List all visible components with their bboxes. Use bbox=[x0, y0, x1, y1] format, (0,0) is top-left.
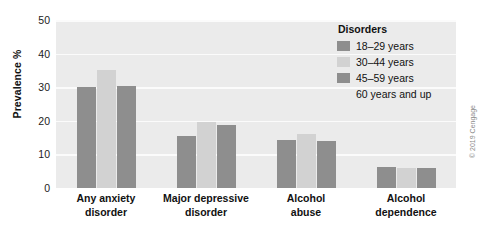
y-axis-tick-labels: 01020304050 bbox=[26, 20, 50, 188]
legend-entry-label: 18–29 years bbox=[356, 40, 414, 52]
bar bbox=[397, 168, 416, 188]
legend-color-swatch bbox=[337, 89, 350, 99]
legend-color-swatch bbox=[337, 41, 350, 51]
y-axis-tick: 30 bbox=[26, 81, 50, 93]
bar-group bbox=[77, 20, 136, 188]
bar bbox=[217, 125, 236, 188]
legend: Disorders 18–29 years30–44 years45–59 ye… bbox=[337, 23, 463, 102]
bar bbox=[317, 141, 336, 188]
legend-entry-label: 60 years and up bbox=[356, 88, 431, 100]
legend-entry: 18–29 years bbox=[337, 38, 463, 54]
y-axis-tick: 40 bbox=[26, 48, 50, 60]
bar-group bbox=[177, 20, 236, 188]
legend-entry: 60 years and up bbox=[337, 86, 463, 102]
x-axis-category-labels: Any anxietydisorderMajor depressivedisor… bbox=[56, 192, 456, 234]
bar bbox=[277, 140, 296, 188]
legend-entry: 45–59 years bbox=[337, 70, 463, 86]
bar bbox=[297, 134, 316, 188]
bar-chart: Prevalence % 01020304050 Any anxietydiso… bbox=[0, 0, 488, 239]
bar bbox=[117, 86, 136, 188]
bar bbox=[417, 168, 436, 188]
bar bbox=[77, 87, 96, 188]
bar-group bbox=[277, 20, 336, 188]
y-axis-title: Prevalence % bbox=[11, 29, 23, 139]
y-axis-tick: 10 bbox=[26, 148, 50, 160]
legend-color-swatch bbox=[337, 57, 350, 67]
legend-entry: 30–44 years bbox=[337, 54, 463, 70]
legend-title: Disorders bbox=[337, 23, 463, 35]
y-axis-tick: 50 bbox=[26, 14, 50, 26]
legend-entry-label: 45–59 years bbox=[356, 72, 414, 84]
legend-entries: 18–29 years30–44 years45–59 years60 year… bbox=[337, 38, 463, 102]
copyright-notice: © 2019 Cengage bbox=[469, 92, 476, 172]
bar bbox=[177, 136, 196, 188]
bar bbox=[197, 122, 216, 188]
legend-color-swatch bbox=[337, 73, 350, 83]
x-axis-label: Alcoholdependence bbox=[346, 192, 466, 219]
bar bbox=[97, 70, 116, 188]
bar bbox=[377, 167, 396, 188]
x-axis-label-line: dependence bbox=[346, 206, 466, 220]
legend-entry-label: 30–44 years bbox=[356, 56, 414, 68]
x-axis-label-line: Alcohol bbox=[346, 192, 466, 206]
y-axis-tick: 20 bbox=[26, 115, 50, 127]
